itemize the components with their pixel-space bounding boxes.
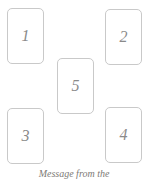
- diagram-caption: Message from the: [0, 167, 148, 180]
- card-slot-4[interactable]: 4: [105, 107, 142, 163]
- card-slot-3[interactable]: 3: [7, 108, 44, 164]
- card-slot-1[interactable]: 1: [7, 8, 44, 64]
- card-slot-2[interactable]: 2: [105, 9, 142, 65]
- card-slot-5[interactable]: 5: [57, 58, 94, 114]
- card-number-label: 1: [22, 28, 30, 44]
- card-number-label: 5: [72, 78, 80, 94]
- card-number-label: 4: [120, 127, 128, 143]
- card-number-label: 2: [120, 29, 128, 45]
- card-number-label: 3: [22, 128, 30, 144]
- card-spread-diagram: 1 2 3 4 5 Message from the: [0, 0, 148, 183]
